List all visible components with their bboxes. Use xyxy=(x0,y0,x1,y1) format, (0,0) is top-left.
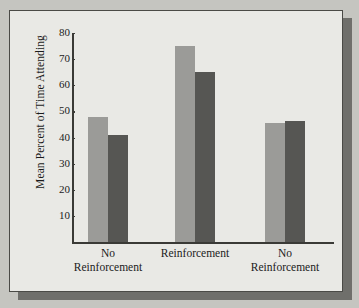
page-background: Mean Percent of Time Attending 102030405… xyxy=(0,0,359,308)
x-axis-line xyxy=(72,242,334,244)
x-group-label-line: Reinforcement xyxy=(235,261,335,275)
y-tick-label: 20 xyxy=(44,184,70,195)
y-tick-label: 10 xyxy=(44,210,70,221)
bar-light-group-3 xyxy=(265,123,285,242)
bars-layer xyxy=(73,33,334,242)
y-tick-label: 60 xyxy=(44,79,70,90)
bar-dark-group-1 xyxy=(108,135,128,242)
y-tick-40: 40 xyxy=(40,132,70,143)
y-tick-label: 40 xyxy=(44,132,70,143)
x-group-label-line: Reinforcement xyxy=(145,247,245,261)
y-tick-80: 80 xyxy=(40,27,70,38)
x-group-label-1: NoReinforcement xyxy=(58,247,158,274)
x-group-label-line: Reinforcement xyxy=(58,261,158,275)
bar-light-group-2 xyxy=(175,46,195,242)
y-tick-60: 60 xyxy=(40,79,70,90)
x-group-label-3: NoReinforcement xyxy=(235,247,335,274)
y-tick-50: 50 xyxy=(40,105,70,116)
bar-dark-group-2 xyxy=(195,72,215,242)
figure-frame: Mean Percent of Time Attending 102030405… xyxy=(9,10,343,292)
y-tick-label: 50 xyxy=(44,105,70,116)
y-tick-label: 80 xyxy=(44,27,70,38)
y-tick-10: 10 xyxy=(40,210,70,221)
y-tick-label: 30 xyxy=(44,158,70,169)
bar-chart: Mean Percent of Time Attending 102030405… xyxy=(10,11,342,291)
bar-light-group-1 xyxy=(88,117,108,242)
y-tick-label: 70 xyxy=(44,53,70,64)
x-group-label-2: Reinforcement xyxy=(145,247,245,261)
bar-dark-group-3 xyxy=(285,121,305,242)
x-group-label-line: No xyxy=(235,247,335,261)
y-tick-20: 20 xyxy=(40,184,70,195)
x-group-label-line: No xyxy=(58,247,158,261)
y-tick-70: 70 xyxy=(40,53,70,64)
y-tick-30: 30 xyxy=(40,158,70,169)
